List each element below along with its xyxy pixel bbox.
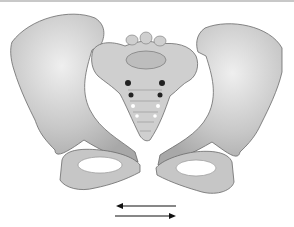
vertebral-body: [126, 51, 166, 69]
arrow-right-icon: [115, 213, 176, 219]
pelvis-illustration: [0, 0, 294, 227]
arrow-left-icon: [116, 203, 176, 209]
